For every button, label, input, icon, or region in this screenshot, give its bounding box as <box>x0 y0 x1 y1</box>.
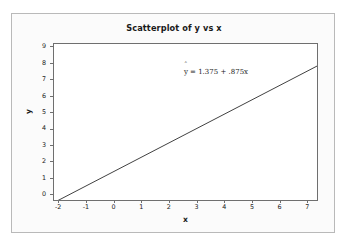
y-hat-symbol: ˆy <box>184 68 188 76</box>
regression-line <box>54 66 317 200</box>
y-tick-label: 3 <box>30 142 46 148</box>
x-tick-label: 4 <box>214 204 234 210</box>
y-tick-label: 1 <box>30 175 46 181</box>
page-title: Scatterplot of y vs x <box>12 23 336 33</box>
x-axis-title: x <box>53 215 318 224</box>
y-tick-label: 0 <box>30 191 46 197</box>
x-tick-label: 2 <box>159 204 179 210</box>
x-tick-label: -1 <box>76 204 96 210</box>
regression-equation-annotation: ˆy= 1.375 + .875x <box>184 68 248 76</box>
y-tick-label: 2 <box>30 158 46 164</box>
x-tick-label: 0 <box>104 204 124 210</box>
graph-panel: Scatterplot of y vs x ˆy= 1.375 + .875x … <box>11 13 335 233</box>
y-tick-label: 4 <box>30 125 46 131</box>
equation-body: = 1.375 + .875x <box>190 68 248 76</box>
y-tick-label: 7 <box>30 76 46 82</box>
x-tick-label: -2 <box>48 204 68 210</box>
y-axis-title: y <box>24 109 33 114</box>
x-tick-label: 7 <box>297 204 317 210</box>
y-tick-label: 8 <box>30 60 46 66</box>
x-tick-label: 6 <box>270 204 290 210</box>
y-tick-label: 9 <box>30 43 46 49</box>
chart-page: Scatterplot of y vs x ˆy= 1.375 + .875x … <box>0 0 346 246</box>
y-tick-label: 6 <box>30 93 46 99</box>
x-tick-label: 3 <box>187 204 207 210</box>
x-tick-label: 5 <box>242 204 262 210</box>
hat-accent-icon: ˆ <box>184 62 188 69</box>
x-tick-label: 1 <box>131 204 151 210</box>
